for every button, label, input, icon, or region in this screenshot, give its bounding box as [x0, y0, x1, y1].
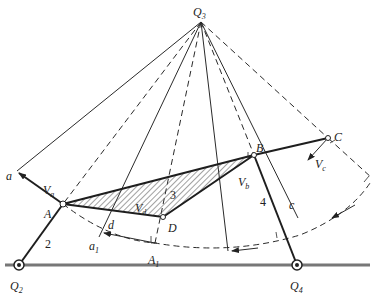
label-C: C [334, 130, 343, 144]
label-a1: a1 [89, 239, 99, 255]
label-Va: Va [43, 183, 54, 199]
velocity-arc [63, 180, 372, 248]
link-2 [19, 204, 63, 265]
label-Q2: Q2 [10, 279, 23, 295]
label-Vc: Vc [315, 157, 326, 173]
label-c: c [289, 198, 295, 212]
label-A: A [43, 207, 52, 221]
joint-A [60, 201, 66, 207]
linkage-diagram: Q3 Q2 Q4 A B C D a a1 A1 c d Va Vb Vc Vd… [0, 0, 380, 295]
label-B: B [256, 141, 264, 155]
label-Vb: Vb [238, 175, 249, 191]
label-a: a [6, 169, 12, 183]
joint-D [161, 215, 166, 220]
label-Q4: Q4 [290, 279, 303, 295]
label-link-3: 3 [170, 188, 176, 202]
label-d: d [108, 218, 115, 232]
label-A1: A1 [147, 253, 159, 269]
label-link-4: 4 [260, 195, 266, 209]
label-Q3: Q3 [193, 5, 206, 21]
label-link-2: 2 [45, 237, 51, 251]
label-D: D [167, 221, 177, 235]
instant-center-rays [17, 22, 372, 251]
joint-C [326, 136, 331, 141]
